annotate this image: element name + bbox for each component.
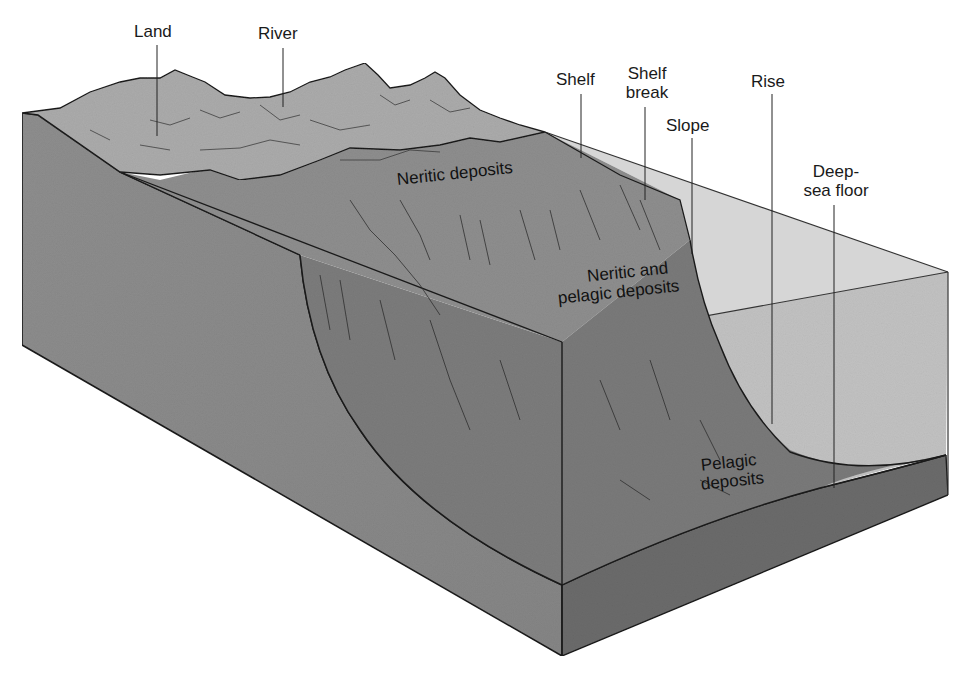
label-rise: Rise — [751, 72, 785, 91]
label-shelf: Shelf — [556, 70, 595, 89]
label-shelf-break-line2: break — [622, 83, 672, 102]
label-river: River — [258, 24, 298, 43]
label-shelf-break: Shelf break — [622, 64, 672, 102]
label-slope: Slope — [666, 116, 709, 135]
continental-margin-diagram: Land River Shelf Shelf break Slope Rise … — [0, 0, 968, 681]
label-deep-sea-floor-line2: sea floor — [794, 181, 878, 200]
label-deep-sea-floor-line1: Deep- — [794, 162, 878, 181]
block-diagram-graphic — [0, 0, 968, 681]
label-land: Land — [134, 22, 172, 41]
label-deep-sea-floor: Deep- sea floor — [794, 162, 878, 200]
label-shelf-break-line1: Shelf — [622, 64, 672, 83]
label-pelagic-deposits: Pelagic deposits — [698, 449, 765, 493]
